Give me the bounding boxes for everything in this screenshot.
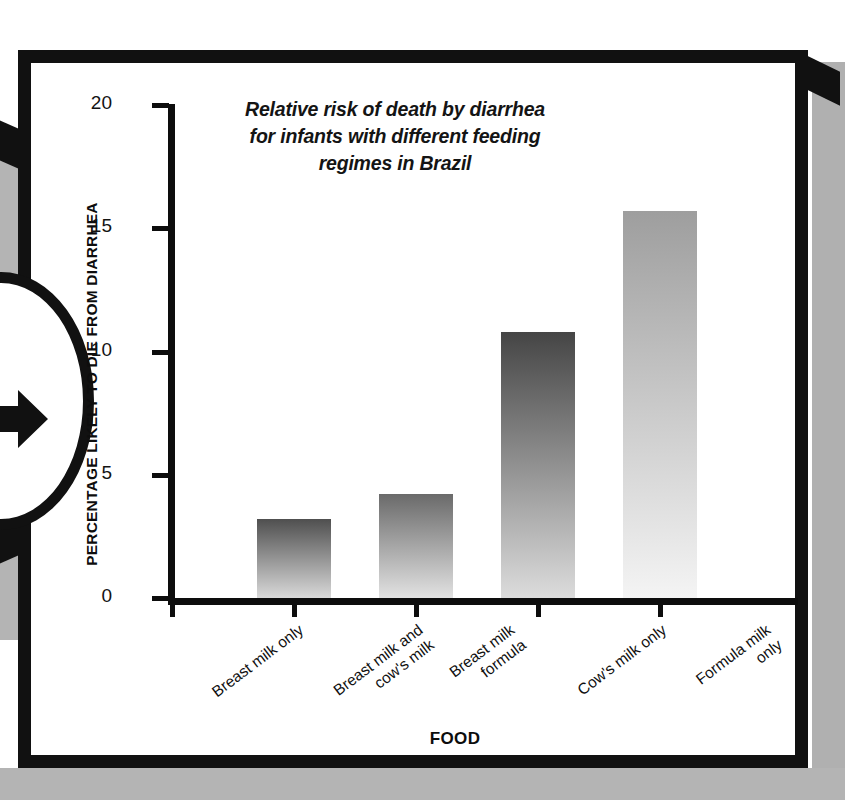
x-axis-tick	[292, 603, 297, 617]
bar[interactable]	[379, 494, 453, 598]
y-axis-tick	[152, 473, 169, 478]
x-axis-tick	[536, 603, 541, 617]
arrow-right-icon[interactable]	[0, 386, 50, 452]
chart-title-line-3: regimes in Brazil	[215, 150, 575, 177]
x-axis-line	[168, 598, 798, 605]
y-axis-tick-label: 0	[70, 585, 112, 607]
chart-title: Relative risk of death by diarrhea for i…	[215, 96, 575, 177]
page-edge-right	[812, 62, 845, 772]
bar[interactable]	[257, 519, 331, 598]
y-axis-tick-label: 10	[70, 339, 112, 361]
y-axis-tick	[152, 596, 169, 601]
page-edge-bottom	[0, 768, 845, 800]
x-axis-label: FOOD	[330, 729, 580, 749]
bar[interactable]	[501, 332, 575, 598]
x-axis-tick	[414, 603, 419, 617]
x-axis-tick	[170, 603, 175, 617]
y-axis-tick-label: 15	[70, 215, 112, 237]
y-axis-line	[168, 104, 175, 604]
y-axis-tick	[152, 103, 169, 108]
chart-title-line-2: for infants with different feeding	[215, 123, 575, 150]
y-axis-tick-label: 5	[70, 462, 112, 484]
y-axis-tick	[152, 350, 169, 355]
x-axis-tick	[658, 603, 663, 617]
bar[interactable]	[623, 211, 697, 598]
chart-title-line-1: Relative risk of death by diarrhea	[215, 96, 575, 123]
y-axis-tick-label: 20	[70, 92, 112, 114]
y-axis-tick	[152, 226, 169, 231]
